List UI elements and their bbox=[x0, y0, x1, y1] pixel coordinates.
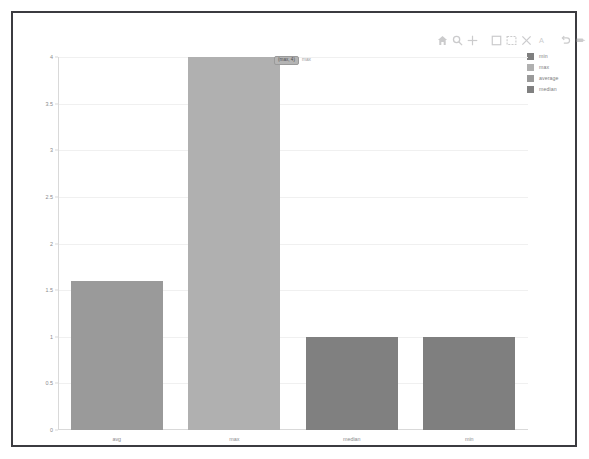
select-box-icon[interactable] bbox=[491, 35, 502, 46]
legend-label: max bbox=[539, 64, 549, 70]
svg-text:A: A bbox=[539, 36, 544, 45]
y-tick-mark bbox=[55, 430, 58, 431]
chart-viewer: A minmaxaveragemedian bbox=[0, 0, 589, 459]
bar-median[interactable] bbox=[306, 337, 398, 430]
x-tick-label: max bbox=[229, 436, 239, 442]
bar-min[interactable] bbox=[423, 337, 515, 430]
plot-area: 00.511.522.533.54 avgmaxmedianmin bbox=[58, 57, 528, 430]
y-tick-mark bbox=[55, 336, 58, 337]
legend-swatch-median bbox=[527, 86, 534, 93]
y-tick-label: 4 bbox=[50, 54, 53, 60]
x-tick-label: avg bbox=[112, 436, 121, 442]
y-tick-label: 3.5 bbox=[46, 101, 54, 107]
home-icon[interactable] bbox=[437, 35, 448, 46]
chart-frame: A minmaxaveragemedian bbox=[11, 11, 577, 447]
legend-item-min[interactable]: min bbox=[527, 51, 587, 61]
pan-icon[interactable] bbox=[467, 35, 478, 46]
x-tick-label: median bbox=[343, 436, 361, 442]
chart-toolbar[interactable]: A bbox=[437, 32, 585, 48]
legend-label: min bbox=[539, 53, 548, 59]
tooltip-value: (max, 4) bbox=[274, 56, 299, 65]
legend-item-average[interactable]: average bbox=[527, 73, 587, 83]
y-tick-mark bbox=[55, 196, 58, 197]
y-tick-mark bbox=[55, 290, 58, 291]
legend-label: average bbox=[539, 75, 558, 81]
y-tick-label: 2 bbox=[50, 241, 53, 247]
y-tick-mark bbox=[55, 243, 58, 244]
hover-compare-icon[interactable] bbox=[575, 35, 586, 46]
gridline bbox=[58, 150, 528, 151]
chart-legend[interactable]: minmaxaveragemedian bbox=[527, 51, 587, 95]
legend-label: median bbox=[539, 86, 557, 92]
legend-swatch-max bbox=[527, 64, 534, 71]
y-tick-label: 0 bbox=[50, 427, 53, 433]
x-tick-label: min bbox=[465, 436, 474, 442]
y-tick-label: 0.5 bbox=[46, 380, 54, 386]
legend-swatch-min bbox=[527, 53, 534, 60]
y-tick-mark bbox=[55, 150, 58, 151]
bar-max[interactable] bbox=[188, 57, 280, 430]
data-tooltip: (max, 4) max bbox=[274, 56, 311, 65]
bar-avg[interactable] bbox=[71, 281, 163, 430]
zoom-icon[interactable] bbox=[452, 35, 463, 46]
legend-item-median[interactable]: median bbox=[527, 84, 587, 94]
crosshair-icon[interactable] bbox=[521, 35, 532, 46]
legend-swatch-average bbox=[527, 75, 534, 82]
undo-icon[interactable] bbox=[560, 35, 571, 46]
y-tick-label: 1 bbox=[50, 334, 53, 340]
select-lasso-icon[interactable] bbox=[506, 35, 517, 46]
y-tick-mark bbox=[55, 103, 58, 104]
y-tick-label: 2.5 bbox=[46, 194, 54, 200]
y-tick-label: 1.5 bbox=[46, 287, 54, 293]
gridline bbox=[58, 244, 528, 245]
y-tick-mark bbox=[55, 57, 58, 58]
gridline bbox=[58, 104, 528, 105]
y-axis-line bbox=[58, 57, 59, 430]
legend-item-max[interactable]: max bbox=[527, 62, 587, 72]
y-tick-label: 3 bbox=[50, 147, 53, 153]
gridline bbox=[58, 197, 528, 198]
y-tick-mark bbox=[55, 383, 58, 384]
reset-axes-icon[interactable]: A bbox=[536, 35, 547, 46]
tooltip-series-label: max bbox=[302, 58, 311, 63]
